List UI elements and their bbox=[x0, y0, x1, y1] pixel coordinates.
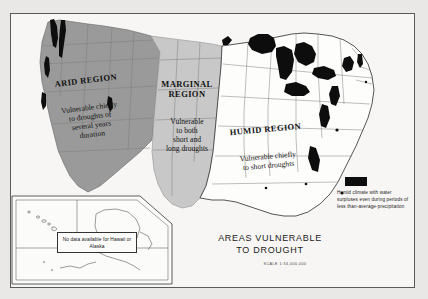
black-patch-dot-virginia bbox=[335, 128, 338, 131]
black-patch-olympic bbox=[222, 36, 232, 45]
drought-vulnerability-map: ARID REGION Vulnerable chiefly to drough… bbox=[0, 0, 428, 299]
inset-no-data-note: No data available for Hawaii or Alaska bbox=[57, 232, 137, 253]
black-patch-dot-gulf bbox=[265, 187, 268, 190]
black-patch-dot-northeast bbox=[365, 81, 367, 83]
black-patch-dot-carolina bbox=[305, 183, 308, 186]
region-arid-shape bbox=[40, 20, 160, 192]
map-legend: Humid climate with water surpluses even … bbox=[337, 177, 413, 210]
legend-swatch-humid-surplus bbox=[345, 177, 367, 186]
black-patch-sierra-nevada bbox=[41, 92, 46, 110]
legend-label-humid-surplus: Humid climate with water surpluses even … bbox=[337, 189, 413, 210]
map-graphic bbox=[0, 0, 428, 299]
